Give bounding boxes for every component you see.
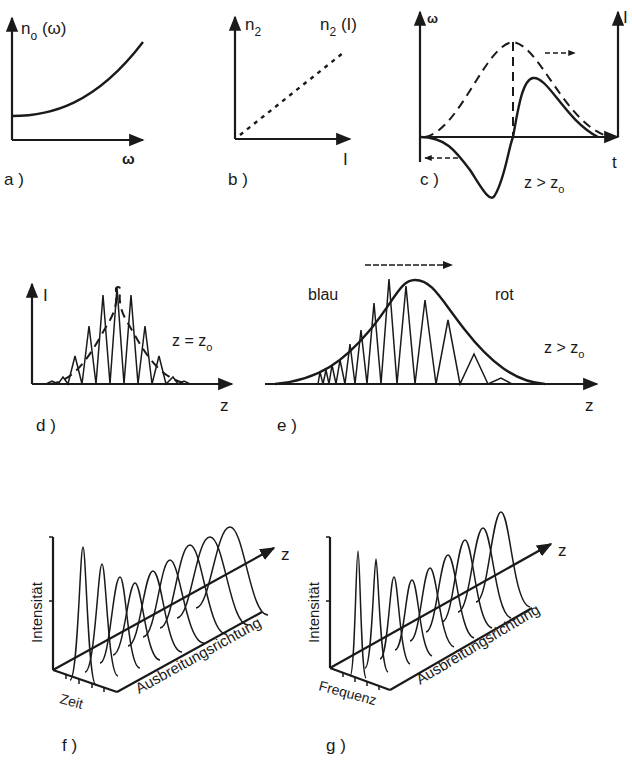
z-axis-label: z [281, 545, 290, 564]
spectrum-traces [350, 512, 530, 678]
panel-label-f: f ) [62, 736, 77, 755]
time-axis-label: t [612, 153, 617, 172]
y-axis-label: I [43, 286, 48, 305]
curve-label: n2 (I) [320, 15, 357, 39]
y-axis-label: no (ω) [21, 19, 66, 43]
x-axis-label: z [220, 396, 229, 415]
panel-label-c: c ) [420, 170, 439, 189]
z-axis-arrow-icon [53, 548, 274, 670]
y-axis-label: n2 [245, 15, 261, 39]
panel-a: no (ω) ω a ) [4, 18, 143, 189]
condition-label: z = zo [172, 332, 212, 353]
panel-f: Intensität Zeit Ausbreitungsrichtung z f… [28, 527, 290, 755]
condition-label: z > zo [544, 339, 584, 360]
panel-c: ω I t c ) z > zo [420, 8, 628, 198]
panel-e: blau rot z > zo z e ) [265, 265, 597, 435]
intensity-label: Intensität [305, 581, 322, 643]
panel-b: n2 n2 (I) I b ) [228, 15, 357, 189]
time-axis [53, 670, 117, 692]
time-label: Zeit [58, 690, 85, 712]
panel-label-a: a ) [4, 170, 24, 189]
propagation-direction-label: Ausbreitungsrichtung [132, 613, 263, 696]
panel-label-b: b ) [228, 170, 248, 189]
chirped-oscillations [318, 279, 512, 384]
omega-axis-label: ω [427, 11, 438, 26]
nonlinear-index-line [240, 53, 343, 135]
propagation-direction-label: Ausbreitungsrichtung [413, 600, 543, 687]
intensity-envelope [425, 42, 610, 137]
panel-label-e: e ) [277, 416, 297, 435]
x-axis-label: z [585, 396, 594, 415]
panel-label-g: g ) [326, 736, 346, 755]
intensity-axis-label: I [623, 8, 628, 27]
carrier-oscillations [46, 287, 190, 384]
blue-label: blau [308, 286, 338, 303]
red-label: rot [495, 286, 514, 303]
figure-canvas: no (ω) ω a ) n2 n2 (I) I b ) ω I t c ) z… [0, 0, 632, 765]
x-axis-label: I [343, 150, 348, 169]
panel-label-d: d ) [36, 416, 56, 435]
refractive-index-curve [12, 42, 143, 116]
panel-d: I z z = zo d ) [32, 284, 232, 435]
panel-g: Intensität Frequenz Ausbreitungsrichtung… [305, 512, 567, 755]
intensity-label: Intensität [28, 581, 45, 643]
z-axis-label: z [558, 541, 567, 560]
x-axis-label: ω [122, 150, 135, 167]
condition-label: z > zo [524, 174, 564, 195]
